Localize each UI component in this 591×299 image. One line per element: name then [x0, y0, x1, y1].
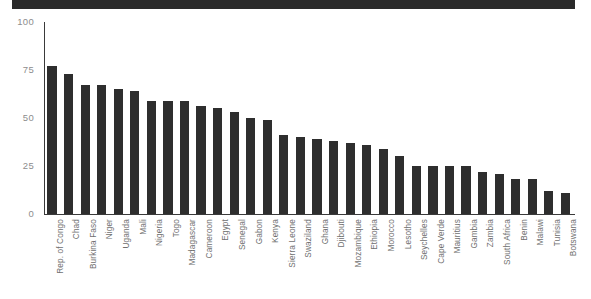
x-label-slot: Sierra Leone: [277, 217, 294, 299]
y-tick-label: 0: [8, 209, 34, 219]
x-axis-label: Madagascar: [189, 172, 197, 219]
x-label-slot: Burkina Faso: [79, 217, 96, 299]
x-axis-label: Chad: [74, 199, 82, 219]
x-axis-label: Malawi: [537, 193, 545, 219]
x-label-slot: Ethiopia: [360, 217, 377, 299]
bar-slot: [161, 22, 178, 214]
bar[interactable]: [346, 143, 355, 214]
x-label-slot: Mali: [128, 217, 145, 299]
bar[interactable]: [312, 139, 321, 214]
x-label-slot: Morocco: [377, 217, 394, 299]
bar-slot: [526, 22, 543, 214]
x-axis-label: Djibouti: [339, 190, 347, 219]
x-axis-label: Niger: [107, 199, 115, 219]
bar[interactable]: [511, 179, 520, 214]
x-label-slot: Nigeria: [145, 217, 162, 299]
x-label-slot: Madagascar: [178, 217, 195, 299]
x-axis-label: Uganda: [123, 189, 131, 219]
bar[interactable]: [495, 174, 504, 214]
x-label-slot: Ghana: [311, 217, 328, 299]
bar-slot: [112, 22, 129, 214]
bar[interactable]: [130, 91, 139, 214]
y-axis-tick-labels: 0255075100: [8, 14, 34, 219]
y-tick-label: 25: [8, 161, 34, 171]
x-label-slot: Cameroon: [195, 217, 212, 299]
x-axis-label: Rep. of Congo: [57, 164, 65, 219]
x-axis-label: Mozambique: [355, 171, 363, 219]
bar-slot: [261, 22, 278, 214]
x-label-slot: Gambia: [460, 217, 477, 299]
x-label-slot: Chad: [62, 217, 79, 299]
x-axis-label: Egypt: [223, 197, 231, 219]
title-banner: [12, 0, 575, 9]
x-label-slot: Uganda: [112, 217, 129, 299]
x-axis-label: Lesotho: [405, 189, 413, 219]
bar[interactable]: [147, 101, 156, 214]
x-label-slot: Senegal: [228, 217, 245, 299]
bar[interactable]: [163, 101, 172, 214]
x-label-slot: Lesotho: [393, 217, 410, 299]
bar[interactable]: [114, 89, 123, 214]
bar[interactable]: [196, 106, 205, 214]
x-axis-label: Cameroon: [206, 180, 214, 219]
x-label-slot: Tunisia: [542, 217, 559, 299]
bar[interactable]: [47, 66, 56, 214]
x-label-slot: Djibouti: [327, 217, 344, 299]
x-label-slot: Niger: [95, 217, 112, 299]
x-axis-label: Ethiopia: [372, 188, 380, 219]
x-label-slot: Rep. of Congo: [46, 217, 63, 299]
x-label-slot: Mozambique: [344, 217, 361, 299]
x-axis-label-text: Botswana: [570, 219, 578, 256]
x-label-slot: Kenya: [261, 217, 278, 299]
x-axis-label: Mauritius: [454, 184, 462, 219]
x-axis-label: Senegal: [239, 188, 247, 219]
x-label-slot: Malawi: [526, 217, 543, 299]
x-label-slot: Togo: [161, 217, 178, 299]
bar[interactable]: [246, 118, 255, 214]
x-axis-label: Botswana: [570, 182, 578, 219]
bar[interactable]: [362, 145, 371, 214]
x-axis-label: Gabon: [256, 194, 264, 219]
x-axis-label: Ghana: [322, 194, 330, 219]
bar-slot: [327, 22, 344, 214]
x-axis-label: Burkina Faso: [90, 169, 98, 219]
x-axis-label: Swaziland: [305, 180, 313, 219]
x-label-slot: Seychelles: [410, 217, 427, 299]
bar[interactable]: [180, 101, 189, 214]
bar-slot: [128, 22, 145, 214]
bar[interactable]: [461, 166, 470, 214]
x-label-slot: Gabon: [244, 217, 261, 299]
x-axis-label: Gambia: [471, 189, 479, 219]
bar-slot: [228, 22, 245, 214]
x-axis-label: Tunisia: [554, 192, 562, 219]
x-axis-label: Seychelles: [421, 178, 429, 219]
bar[interactable]: [279, 135, 288, 214]
x-axis-label: Morocco: [388, 187, 396, 219]
x-label-slot: Cape Verde: [426, 217, 443, 299]
x-axis-label: Cape Verde: [438, 174, 446, 219]
bar-slot: [145, 22, 162, 214]
bar-slot: [542, 22, 559, 214]
bar[interactable]: [395, 156, 404, 214]
x-label-slot: Benin: [509, 217, 526, 299]
x-label-slot: Botswana: [559, 217, 576, 299]
x-axis-label: Benin: [521, 197, 529, 219]
bar-chart: 0255075100 Rep. of CongoChadBurkina Faso…: [0, 14, 591, 299]
x-axis-category-labels: Rep. of CongoChadBurkina FasoNigerUganda…: [46, 217, 576, 299]
x-label-slot: Swaziland: [294, 217, 311, 299]
bar[interactable]: [428, 166, 437, 214]
y-tick-label: 75: [8, 65, 34, 75]
x-label-slot: Egypt: [211, 217, 228, 299]
bar[interactable]: [81, 85, 90, 214]
x-label-slot: Zambia: [476, 217, 493, 299]
bar[interactable]: [97, 85, 106, 214]
bar-slot: [393, 22, 410, 214]
x-axis-label: Nigeria: [156, 192, 164, 219]
bar-slot: [476, 22, 493, 214]
bar[interactable]: [230, 112, 239, 214]
bar[interactable]: [379, 149, 388, 214]
bar-slot: [377, 22, 394, 214]
x-label-slot: South Africa: [493, 217, 510, 299]
x-label-slot: Mauritius: [443, 217, 460, 299]
bar[interactable]: [544, 191, 553, 214]
